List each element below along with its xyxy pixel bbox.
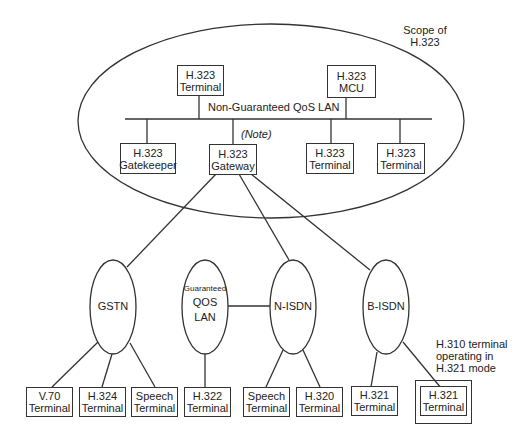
network-gstn: GSTN (90, 300, 136, 313)
node-line2: Terminal (309, 159, 351, 171)
h323-terminal-top[interactable]: H.323 Terminal (177, 65, 224, 96)
gqos-line1: Guaranteed (180, 283, 230, 295)
node-line1: H.322 (193, 390, 222, 402)
h321-terminal-h310-mode[interactable]: H.321 Terminal (420, 386, 467, 416)
node-line1: Speech (136, 390, 173, 402)
node-line1: H.323 (133, 147, 162, 159)
node-line1: H.323 (315, 147, 344, 159)
h323-mcu[interactable]: H.323 MCU (327, 65, 376, 98)
network-n-isdn: N-ISDN (266, 300, 320, 313)
node-line1: H.323 (337, 70, 366, 82)
h310-label-line2: operating in (436, 350, 508, 362)
speech-terminal-nisdn[interactable]: Speech Terminal (243, 387, 290, 417)
node-line2: Terminal (134, 402, 176, 414)
node-line2: Gateway (211, 160, 254, 172)
h323-scope-ellipse (78, 24, 464, 218)
node-line2: Terminal (180, 81, 222, 93)
h310-label-line3: H.321 mode (436, 362, 508, 374)
v70-terminal[interactable]: V.70 Terminal (26, 387, 73, 417)
h323-gatekeeper[interactable]: H.323 Gatekeeper (120, 143, 176, 174)
node-line1: V.70 (39, 390, 61, 402)
h323-terminal-a[interactable]: H.323 Terminal (306, 143, 354, 174)
node-line2: Terminal (423, 401, 465, 413)
node-line1: Speech (248, 390, 285, 402)
h310-label-line1: H.310 terminal (436, 338, 508, 350)
node-line1: H.323 (386, 147, 415, 159)
node-line2: Terminal (29, 402, 71, 414)
h324-terminal[interactable]: H.324 Terminal (79, 387, 126, 417)
node-line2: Terminal (187, 402, 229, 414)
lan-label: Non-Guaranteed QoS LAN (208, 101, 339, 113)
h323-terminal-b[interactable]: H.323 Terminal (377, 143, 425, 174)
node-line2: Gatekeeper (119, 159, 176, 171)
node-line1: H.324 (88, 390, 117, 402)
node-line2: Terminal (380, 159, 422, 171)
scope-label-line1: Scope of (390, 24, 460, 36)
node-line1: H.321 (360, 389, 389, 401)
h323-gateway[interactable]: H.323 Gateway (209, 144, 257, 175)
h322-terminal[interactable]: H.322 Terminal (184, 387, 231, 417)
note-label: (Note) (241, 128, 272, 140)
node-line2: Terminal (246, 402, 288, 414)
node-line1: H.323 (186, 69, 215, 81)
node-line2: Terminal (82, 402, 124, 414)
h310-label: H.310 terminal operating in H.321 mode (436, 338, 508, 374)
node-line1: H.320 (305, 390, 334, 402)
gqos-line2: QOS (180, 295, 230, 310)
h320-terminal[interactable]: H.320 Terminal (296, 387, 343, 417)
node-line1: H.323 (218, 148, 247, 160)
scope-label: Scope of H.323 (390, 24, 460, 48)
speech-terminal-gstn[interactable]: Speech Terminal (131, 387, 178, 417)
node-line1: H.321 (429, 389, 458, 401)
node-line2: MCU (339, 82, 364, 94)
node-line2: Terminal (299, 402, 341, 414)
network-guaranteed-qos-lan: Guaranteed QOS LAN (180, 283, 230, 324)
h321-terminal[interactable]: H.321 Terminal (351, 386, 398, 416)
scope-label-line2: H.323 (390, 36, 460, 48)
network-b-isdn: B-ISDN (359, 300, 413, 313)
gqos-line3: LAN (180, 310, 230, 324)
node-line2: Terminal (354, 401, 396, 413)
